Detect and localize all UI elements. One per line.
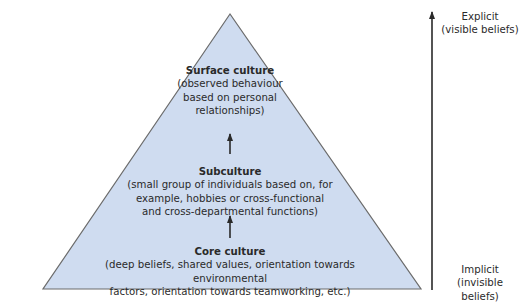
layer-core-culture: Core culture (deep beliefs, shared value…: [70, 245, 390, 299]
axis-bottom-label: Implicit (invisible beliefs): [440, 263, 520, 303]
layer-title: Subculture: [100, 165, 360, 178]
layer-desc-line: factors, orientation towards teamworking…: [70, 285, 390, 298]
layer-desc-line: example, hobbies or cross-functional: [100, 192, 360, 205]
layer-desc-line: (observed behaviour: [160, 77, 300, 90]
layer-subculture: Subculture (small group of individuals b…: [100, 165, 360, 219]
layer-desc-line: based on personal: [160, 91, 300, 104]
layer-desc-line: relationships): [160, 104, 300, 117]
axis-label-title: Explicit: [440, 10, 520, 23]
axis-label-sub: (visible beliefs): [440, 23, 520, 36]
axis-label-sub: (invisible beliefs): [440, 276, 520, 303]
layer-surface-culture: Surface culture (observed behaviour base…: [160, 64, 300, 118]
layer-desc-line: (deep beliefs, shared values, orientatio…: [70, 258, 390, 285]
axis-label-title: Implicit: [440, 263, 520, 276]
layer-desc-line: and cross-departmental functions): [100, 205, 360, 218]
layer-desc-line: (small group of individuals based on, fo…: [100, 178, 360, 191]
axis-top-label: Explicit (visible beliefs): [440, 10, 520, 37]
layer-title: Core culture: [70, 245, 390, 258]
layer-title: Surface culture: [160, 64, 300, 77]
